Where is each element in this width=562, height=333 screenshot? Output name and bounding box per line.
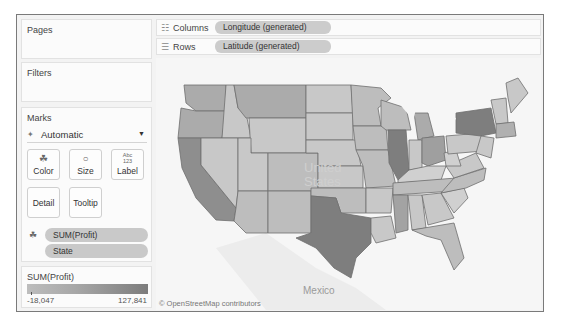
- state-ia: [353, 126, 388, 150]
- longitude-pill[interactable]: Longitude (generated): [215, 21, 331, 34]
- state-mt: [234, 85, 306, 118]
- filters-shelf[interactable]: Filters: [21, 62, 152, 102]
- columns-label-text: Columns: [173, 23, 209, 33]
- latitude-pill[interactable]: Latitude (generated): [215, 40, 331, 53]
- rows-shelf[interactable]: ☰ Rows Latitude (generated): [156, 38, 541, 55]
- chevron-down-icon: ▼: [138, 130, 145, 137]
- state-nm: [268, 191, 311, 233]
- country-label-mexico: Mexico: [303, 285, 335, 296]
- state-new-england-south: [496, 122, 516, 138]
- rows-icon: ☰: [161, 42, 169, 52]
- state-fl: [412, 223, 464, 270]
- detail-button[interactable]: Detail: [27, 187, 60, 218]
- state-ar: [366, 188, 393, 213]
- label-button-label: Label: [117, 166, 138, 176]
- legend-max-value: 127,841: [118, 296, 147, 305]
- pages-shelf[interactable]: Pages: [21, 19, 152, 59]
- color-button[interactable]: ☘ Color: [27, 149, 60, 180]
- marks-card: Marks ✦ Automatic ▼ ☘ Color ○ Size Abc12…: [21, 107, 152, 262]
- filters-title: Filters: [27, 68, 52, 78]
- label-button[interactable]: Abc123 Label: [111, 149, 144, 180]
- left-panel: Pages Filters Marks ✦ Automatic ▼ ☘ Colo…: [21, 19, 152, 308]
- legend-gradient-bar: [27, 284, 148, 294]
- state-wa: [184, 85, 226, 111]
- tableau-worksheet: Pages Filters Marks ✦ Automatic ▼ ☘ Colo…: [16, 14, 544, 312]
- state-nd: [306, 85, 353, 113]
- state-or: [178, 108, 226, 138]
- us-states-map: [156, 58, 541, 310]
- label-abc-icon: Abc123: [123, 152, 132, 164]
- size-icon: ○: [82, 153, 88, 164]
- automatic-mark-icon: ✦: [27, 130, 41, 139]
- columns-icon: ☷: [161, 23, 169, 33]
- map-attribution[interactable]: © OpenStreetMap contributors: [159, 299, 261, 308]
- rows-label-text: Rows: [173, 42, 196, 52]
- field-pill-state[interactable]: State: [45, 244, 148, 258]
- color-icon: ☘: [29, 228, 37, 242]
- size-button[interactable]: ○ Size: [69, 149, 102, 180]
- color-legend: SUM(Profit) -18,047 127,841: [21, 266, 152, 308]
- state-oh: [422, 136, 446, 166]
- state-ny: [456, 108, 496, 136]
- state-in: [409, 140, 422, 170]
- color-icon: ☘: [39, 153, 48, 164]
- mark-type-dropdown[interactable]: ✦ Automatic ▼: [27, 127, 147, 143]
- rows-shelf-label: ☰ Rows: [161, 42, 196, 52]
- tooltip-button[interactable]: Tooltip: [69, 187, 102, 218]
- size-button-label: Size: [77, 166, 94, 176]
- state-la: [371, 216, 396, 243]
- map-view[interactable]: United States Mexico © OpenStreetMap con…: [156, 58, 541, 310]
- color-button-label: Color: [33, 166, 53, 176]
- columns-shelf-label: ☷ Columns: [161, 23, 209, 33]
- state-ms: [393, 195, 408, 233]
- state-sd: [306, 113, 353, 140]
- country-label-united-states: United States: [304, 161, 342, 189]
- state-wy: [249, 118, 306, 153]
- marks-title: Marks: [27, 113, 52, 123]
- pages-title: Pages: [27, 25, 53, 35]
- legend-zero-tick: [31, 292, 32, 295]
- field-pill-sum-profit[interactable]: SUM(Profit): [45, 228, 148, 242]
- legend-min-value: -18,047: [27, 296, 54, 305]
- detail-button-label: Detail: [33, 198, 55, 208]
- state-me: [506, 78, 528, 113]
- mark-type-label: Automatic: [41, 129, 83, 140]
- state-az: [234, 191, 268, 233]
- legend-title: SUM(Profit): [27, 272, 74, 282]
- columns-shelf[interactable]: ☷ Columns Longitude (generated): [156, 19, 541, 36]
- tooltip-button-label: Tooltip: [73, 198, 98, 208]
